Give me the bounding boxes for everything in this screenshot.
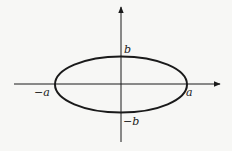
label-a-right: a (186, 86, 193, 99)
ellipse-diagram: b −b −a a (0, 0, 232, 151)
label-a-left: −a (34, 86, 50, 99)
label-b-bottom: −b (123, 115, 139, 128)
label-b-top: b (124, 43, 131, 56)
